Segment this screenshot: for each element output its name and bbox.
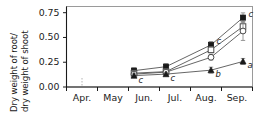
data-point-open-square <box>208 47 214 53</box>
y-tick-label: 0.00 <box>30 81 60 92</box>
data-point-open-circle <box>240 28 246 34</box>
y-tick-label: 0.75 <box>30 7 60 18</box>
plot-frame <box>67 7 253 88</box>
data-point-open-circle <box>208 54 214 60</box>
y-tick-label: 0.25 <box>30 56 60 67</box>
y-axis-label-line2: dry weight of shoot <box>20 31 30 112</box>
y-axis-label-line1: Dry weight of root/ <box>9 33 19 112</box>
significance-label: c <box>217 36 222 46</box>
significance-label: c <box>249 9 254 19</box>
significance-label: c <box>139 75 144 85</box>
significance-label: c <box>171 73 176 83</box>
significance-label: b <box>216 69 221 79</box>
x-tick-label: Sep. <box>215 92 259 103</box>
y-tick-label: 0.50 <box>30 31 60 42</box>
significance-label: a <box>248 60 253 70</box>
data-point-filled-square <box>240 15 245 20</box>
